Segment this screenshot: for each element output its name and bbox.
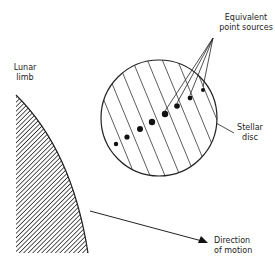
label-line: Equivalent [218,13,274,23]
label-line: Direction [214,236,262,246]
label-line: Stellar [232,123,268,133]
label-line: limb [10,73,40,83]
stellar-disc-label: Stellar disc [232,123,268,143]
equivalent-point-sources-label: Equivalent point sources [218,13,274,33]
label-line: of motion [214,246,262,256]
direction-of-motion-label: Direction of motion [214,236,262,256]
stellar-disc [45,30,250,200]
label-line: Lunar [10,63,40,73]
point-sources [114,88,205,146]
motion-arrow [90,211,208,243]
lunar-limb [16,95,88,253]
label-line: point sources [218,23,274,33]
lunar-limb-label: Lunar limb [10,63,40,83]
label-line: disc [232,133,268,143]
